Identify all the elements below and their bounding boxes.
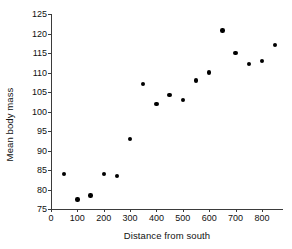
x-tick-mark — [183, 209, 184, 212]
data-point — [194, 78, 198, 82]
y-tick-label: 100 — [32, 107, 47, 117]
y-tick-label: 80 — [37, 185, 47, 195]
data-point — [207, 70, 211, 74]
y-tick-mark — [48, 92, 51, 93]
x-tick-label: 600 — [202, 213, 217, 223]
data-point — [233, 51, 237, 55]
x-tick-label: 0 — [48, 213, 53, 223]
x-tick-mark — [209, 209, 210, 212]
x-tick-mark — [104, 209, 105, 212]
data-point — [154, 102, 158, 106]
data-point — [141, 82, 145, 86]
y-tick-mark — [48, 151, 51, 152]
x-tick-label: 500 — [175, 213, 190, 223]
y-tick-mark — [48, 190, 51, 191]
data-point — [75, 197, 79, 201]
y-tick-mark — [48, 131, 51, 132]
y-tick-label: 105 — [32, 87, 47, 97]
data-point — [88, 193, 92, 197]
y-axis-line — [51, 14, 52, 210]
x-tick-mark — [51, 209, 52, 212]
y-tick-label: 95 — [37, 126, 47, 136]
data-point — [220, 28, 224, 32]
data-point — [273, 43, 277, 47]
y-tick-label: 110 — [33, 68, 47, 78]
y-tick-mark — [48, 34, 51, 35]
y-tick-label: 120 — [32, 29, 47, 39]
data-point — [115, 174, 119, 178]
x-tick-label: 400 — [149, 213, 164, 223]
data-point — [167, 93, 171, 97]
y-tick-label: 90 — [37, 146, 47, 156]
scatter-chart-figure: Mean body mass Distance from south 75808… — [0, 0, 292, 249]
y-tick-label: 125 — [32, 9, 47, 19]
y-tick-label: 75 — [37, 204, 47, 214]
plot-area: 7580859095100105110115120125 01002003004… — [51, 14, 283, 209]
y-tick-mark — [48, 14, 51, 15]
data-point — [102, 172, 106, 176]
x-tick-label: 200 — [96, 213, 111, 223]
y-tick-label: 85 — [37, 165, 47, 175]
x-tick-mark — [130, 209, 131, 212]
y-tick-mark — [48, 170, 51, 171]
x-tick-mark — [236, 209, 237, 212]
data-point — [260, 59, 264, 63]
x-tick-label: 300 — [123, 213, 138, 223]
data-point — [247, 62, 251, 66]
data-point — [62, 172, 66, 176]
x-tick-label: 100 — [70, 213, 85, 223]
data-point — [128, 137, 132, 141]
y-axis-title: Mean body mass — [0, 0, 18, 249]
x-tick-mark — [156, 209, 157, 212]
x-axis-title: Distance from south — [51, 230, 283, 241]
x-tick-mark — [77, 209, 78, 212]
x-axis-line — [51, 209, 283, 210]
x-tick-label: 800 — [254, 213, 269, 223]
x-tick-mark — [262, 209, 263, 212]
y-tick-mark — [48, 112, 51, 113]
data-point — [181, 98, 185, 102]
y-tick-mark — [48, 73, 51, 74]
y-tick-mark — [48, 53, 51, 54]
y-tick-label: 115 — [33, 48, 47, 58]
x-tick-label: 700 — [228, 213, 243, 223]
